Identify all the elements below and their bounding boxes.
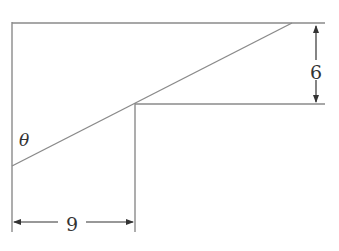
diagram-svg: 6 9 θ [0,0,339,251]
angle-theta-label: θ [19,130,29,150]
dimension-6-label: 6 [310,61,322,83]
geometry-diagram: 6 9 θ [0,0,339,251]
dimension-9-label: 9 [66,213,78,235]
diagonal-line [12,23,292,166]
